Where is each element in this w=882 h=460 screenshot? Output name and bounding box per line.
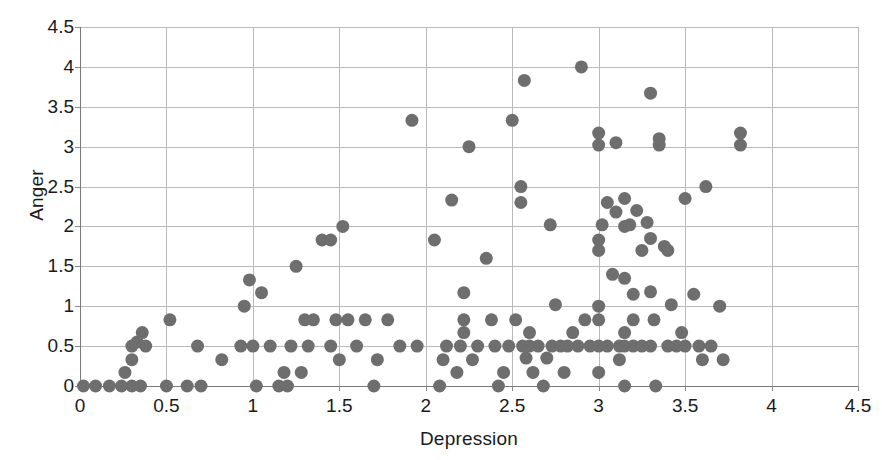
data-point	[502, 340, 515, 353]
data-point	[359, 313, 372, 326]
scatter-chart: Anger 00.511.522.533.544.5 00.511.522.53…	[0, 0, 882, 460]
x-tick-label: 1	[229, 395, 277, 417]
data-point	[329, 313, 342, 326]
data-point	[627, 313, 640, 326]
data-point	[324, 340, 337, 353]
data-point	[679, 340, 692, 353]
x-axis-tick-labels: 00.511.522.533.544.5	[0, 395, 882, 425]
data-point	[134, 380, 147, 393]
data-point	[405, 114, 418, 127]
data-point	[139, 340, 152, 353]
data-point	[575, 60, 588, 73]
data-point	[734, 127, 747, 140]
data-point	[411, 340, 424, 353]
data-point	[592, 244, 605, 257]
data-point	[341, 313, 354, 326]
data-point	[696, 353, 709, 366]
data-point	[644, 340, 657, 353]
data-point	[717, 353, 730, 366]
data-point	[243, 273, 256, 286]
data-point	[246, 340, 259, 353]
data-point	[566, 326, 579, 339]
data-point	[592, 139, 605, 152]
data-point	[103, 380, 116, 393]
data-point	[215, 353, 228, 366]
data-point	[592, 300, 605, 313]
data-point	[606, 268, 619, 281]
data-point	[526, 366, 539, 379]
data-point	[544, 218, 557, 231]
data-point	[649, 380, 662, 393]
x-tick-label: 3	[575, 395, 623, 417]
data-point	[450, 366, 463, 379]
data-point	[118, 366, 131, 379]
y-tick-label: 2.5	[32, 176, 74, 198]
data-point	[692, 340, 705, 353]
data-point	[264, 340, 277, 353]
data-point	[454, 340, 467, 353]
data-point	[77, 380, 90, 393]
data-point	[281, 380, 294, 393]
data-point	[613, 353, 626, 366]
x-tick-label: 2.5	[488, 395, 536, 417]
data-point	[653, 139, 666, 152]
data-point	[295, 366, 308, 379]
data-point	[509, 313, 522, 326]
data-point	[457, 313, 470, 326]
data-point	[537, 380, 550, 393]
data-point	[641, 216, 654, 229]
data-point	[618, 326, 631, 339]
data-point	[492, 380, 505, 393]
data-point	[618, 272, 631, 285]
data-point	[284, 340, 297, 353]
data-point	[518, 74, 531, 87]
data-point	[506, 114, 519, 127]
x-tick-label: 0	[56, 395, 104, 417]
data-point	[623, 218, 636, 231]
data-point	[336, 220, 349, 233]
data-point	[665, 298, 678, 311]
data-point	[675, 326, 688, 339]
data-point	[195, 380, 208, 393]
data-point	[514, 180, 527, 193]
y-axis-tick-labels: 00.511.522.533.544.5	[0, 0, 74, 460]
data-point	[571, 340, 584, 353]
data-point	[445, 194, 458, 207]
x-tick-label: 0.5	[142, 395, 190, 417]
data-point	[601, 340, 614, 353]
data-point	[644, 285, 657, 298]
data-point	[136, 326, 149, 339]
y-tick-label: 0.5	[32, 335, 74, 357]
data-point	[699, 180, 712, 193]
data-point	[687, 288, 700, 301]
data-point	[520, 352, 533, 365]
data-point	[618, 380, 631, 393]
data-point	[592, 366, 605, 379]
y-tick-label: 3	[32, 136, 74, 158]
data-point	[324, 234, 337, 247]
data-point	[578, 313, 591, 326]
data-point	[428, 234, 441, 247]
x-tick-label: 3.5	[661, 395, 709, 417]
data-point	[255, 286, 268, 299]
data-point	[333, 353, 346, 366]
data-point	[457, 326, 470, 339]
data-point	[191, 340, 204, 353]
data-point	[367, 380, 380, 393]
x-tick-label: 1.5	[315, 395, 363, 417]
data-point	[596, 218, 609, 231]
data-point	[558, 366, 571, 379]
data-point	[278, 366, 291, 379]
data-point	[433, 380, 446, 393]
data-point	[381, 313, 394, 326]
data-point	[160, 380, 173, 393]
data-point	[532, 340, 545, 353]
data-point	[238, 300, 251, 313]
data-point	[440, 340, 453, 353]
data-point	[609, 136, 622, 149]
y-tick-label: 4.5	[32, 16, 74, 38]
y-tick-label: 4	[32, 56, 74, 78]
data-point	[713, 300, 726, 313]
data-point	[466, 353, 479, 366]
data-point	[234, 340, 247, 353]
